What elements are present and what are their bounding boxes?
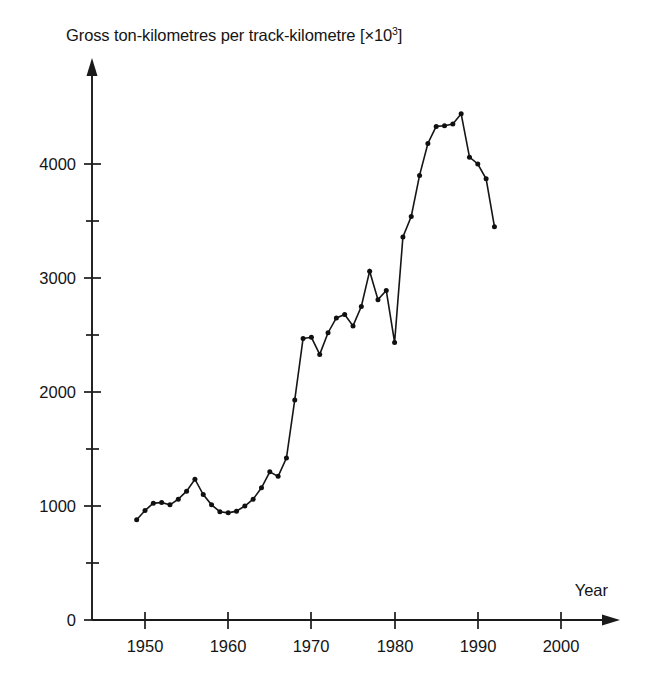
y-tick-label-2000: 2000 <box>39 383 76 401</box>
data-point <box>367 269 372 274</box>
data-series-markers <box>134 111 497 522</box>
x-tick-label-1980: 1980 <box>377 637 414 655</box>
x-tick-label-1990: 1990 <box>460 637 497 655</box>
x-axis <box>92 615 620 626</box>
data-point <box>184 489 189 494</box>
data-point <box>351 323 356 328</box>
data-point <box>192 477 197 482</box>
data-point <box>484 176 489 181</box>
data-point <box>359 304 364 309</box>
data-point <box>417 173 422 178</box>
data-point <box>384 288 389 293</box>
data-point <box>392 340 397 345</box>
data-point <box>159 500 164 505</box>
data-point <box>143 508 148 513</box>
y-tick-label-4000: 4000 <box>39 155 76 173</box>
x-tick-labels: 1950 1960 1970 1980 1990 2000 <box>127 637 580 655</box>
data-point <box>400 234 405 239</box>
data-point <box>442 123 447 128</box>
x-axis-arrowhead <box>602 615 620 626</box>
data-point <box>450 122 455 127</box>
data-point <box>492 224 497 229</box>
data-point <box>284 456 289 461</box>
data-point <box>259 485 264 490</box>
data-point <box>267 469 272 474</box>
y-axis-arrowhead <box>87 58 98 76</box>
data-point <box>226 510 231 515</box>
y-tick-label-0: 0 <box>67 611 76 629</box>
data-point <box>151 501 156 506</box>
data-point <box>434 124 439 129</box>
data-point <box>317 352 322 357</box>
data-point <box>467 155 472 160</box>
data-point <box>409 214 414 219</box>
x-tick-label-1960: 1960 <box>210 637 247 655</box>
data-point <box>342 312 347 317</box>
data-point <box>134 517 139 522</box>
y-axis <box>87 58 98 620</box>
data-point <box>292 397 297 402</box>
data-series-line <box>137 114 495 520</box>
data-point <box>176 497 181 502</box>
data-point <box>425 141 430 146</box>
x-tick-label-1950: 1950 <box>127 637 164 655</box>
data-point <box>217 509 222 514</box>
data-point <box>301 336 306 341</box>
data-point <box>251 497 256 502</box>
x-axis-label: Year <box>575 581 609 599</box>
data-point <box>309 335 314 340</box>
x-tick-label-1970: 1970 <box>293 637 330 655</box>
y-tick-labels: 0 1000 2000 3000 4000 <box>39 155 76 629</box>
data-point <box>326 330 331 335</box>
data-point <box>167 502 172 507</box>
chart-figure: Gross ton-kilometres per track-kilometre… <box>0 0 647 675</box>
data-point <box>234 509 239 514</box>
data-point <box>201 492 206 497</box>
data-point <box>475 162 480 167</box>
data-point <box>276 474 281 479</box>
data-point <box>334 315 339 320</box>
data-point <box>375 297 380 302</box>
data-point <box>242 504 247 509</box>
y-tick-label-1000: 1000 <box>39 497 76 515</box>
y-tick-label-3000: 3000 <box>39 269 76 287</box>
data-point <box>459 111 464 116</box>
x-tick-label-2000: 2000 <box>543 637 580 655</box>
data-point <box>209 502 214 507</box>
plot-area: 0 1000 2000 3000 4000 1950 1960 1970 198… <box>0 0 647 675</box>
